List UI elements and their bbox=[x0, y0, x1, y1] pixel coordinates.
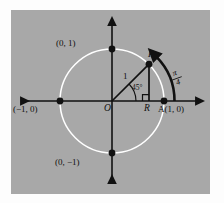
screenshot-root: (0, 1) (0, −1) (−1, 0) A(1, 0) O R P 1 4… bbox=[0, 0, 224, 203]
point-marker-bottom bbox=[109, 150, 116, 157]
point-marker-top bbox=[109, 46, 116, 53]
figure-panel: (0, 1) (0, −1) (−1, 0) A(1, 0) O R P 1 4… bbox=[11, 10, 210, 194]
point-marker-right bbox=[161, 98, 168, 105]
radius-segment-op bbox=[112, 64, 149, 101]
right-angle-marker bbox=[143, 95, 150, 101]
angle-arc-45 bbox=[129, 84, 136, 101]
point-marker-left bbox=[57, 98, 64, 105]
unit-circle-figure bbox=[11, 10, 210, 194]
point-marker-p bbox=[146, 61, 153, 68]
